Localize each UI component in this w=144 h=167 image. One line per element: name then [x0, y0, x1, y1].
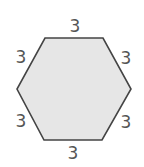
label-lower-left: 3: [16, 111, 27, 131]
hexagon: [17, 38, 131, 140]
label-lower-right: 3: [121, 112, 132, 132]
label-upper-right: 3: [121, 48, 132, 68]
label-upper-left: 3: [16, 47, 27, 67]
hexagon-diagram: 3 3 3 3 3 3: [0, 0, 144, 167]
label-top: 3: [70, 16, 81, 36]
label-bottom: 3: [68, 143, 79, 163]
